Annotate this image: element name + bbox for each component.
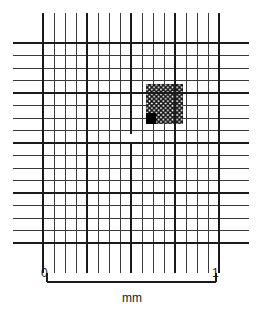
scale-label-zero: 0 [41, 267, 48, 279]
solid-black-square [146, 113, 156, 124]
scale-label-one: 1 [212, 267, 219, 279]
center-blank-cell [127, 134, 135, 142]
scale-label-units: mm [0, 292, 264, 304]
grid-center-blank-cell [127, 134, 135, 142]
grid-highlight-squares [146, 84, 183, 124]
hemocytometer-grid-figure [0, 0, 264, 317]
